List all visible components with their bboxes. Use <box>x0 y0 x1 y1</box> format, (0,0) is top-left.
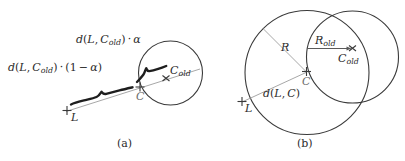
panel-b-label-d-L-C: d(L, C) <box>263 88 300 99</box>
panel-b-label-Rold: Rold <box>315 35 336 48</box>
panel-a-label-alpha-segment: d(L, Cold) · α <box>76 34 141 47</box>
figure-canvas <box>0 0 405 161</box>
panel-b-caption: (b) <box>297 137 313 150</box>
panel-a-graphics <box>63 41 203 115</box>
panel-b-graphics <box>238 11 399 135</box>
panel-a-brace-one-minus-alpha <box>71 87 133 104</box>
panel-b-label-Cold: Cold <box>338 53 359 66</box>
panel-a-caption: (a) <box>117 137 132 150</box>
figure-root: d(L, Cold) · α d(L, Cold) · (1 − α) L C … <box>0 0 405 161</box>
panel-a-label-one-minus-alpha-segment: d(L, Cold) · (1 − α) <box>8 62 102 75</box>
panel-a-label-L: L <box>71 112 78 123</box>
panel-a-label-C: C <box>136 91 144 102</box>
panel-b-label-R: R <box>281 42 289 53</box>
panel-b-label-L: L <box>245 103 252 114</box>
panel-b-label-C: C <box>302 76 310 87</box>
panel-a-brace-alpha <box>137 66 166 82</box>
panel-a-label-Cold: Cold <box>170 65 191 78</box>
